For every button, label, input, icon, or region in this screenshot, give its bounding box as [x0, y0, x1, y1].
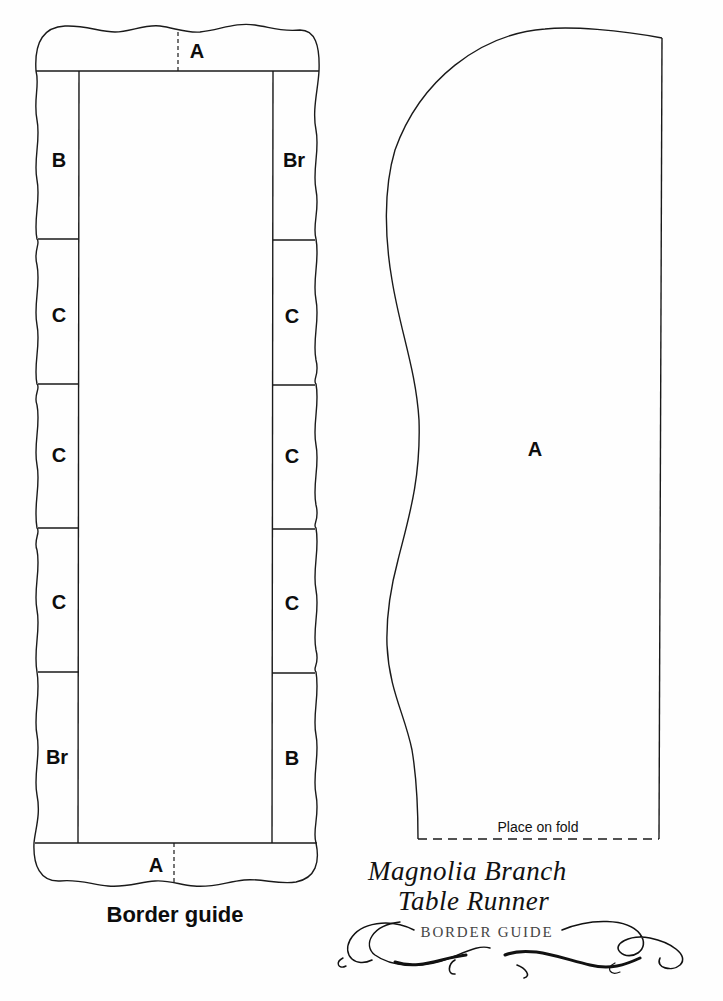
label-right-segment-1: Br: [283, 150, 305, 170]
pattern-piece-outline: [386, 28, 662, 839]
label-right-segment-2: C: [285, 306, 299, 326]
label-top-band: A: [190, 41, 204, 61]
pattern-page: A B C C C Br Br C C C B A Border guide A…: [0, 0, 723, 1001]
place-on-fold-note: Place on fold: [498, 819, 579, 835]
label-right-segment-3: C: [285, 446, 299, 466]
label-left-segment-4: C: [52, 592, 66, 612]
label-left-segment-5: Br: [46, 747, 68, 767]
label-right-segment-4: C: [285, 593, 299, 613]
label-right-segment-5: B: [285, 748, 299, 768]
title-line-1: Magnolia Branch: [368, 856, 567, 887]
title-line-2: Table Runner: [398, 886, 549, 917]
label-left-segment-1: B: [52, 150, 66, 170]
label-left-segment-2: C: [52, 305, 66, 325]
label-left-segment-3: C: [52, 445, 66, 465]
border-outline: [34, 24, 319, 886]
title-subtitle: BORDER GUIDE: [421, 924, 554, 941]
border-guide-caption: Border guide: [107, 902, 244, 928]
label-bottom-band: A: [149, 855, 163, 875]
pattern-piece-label: A: [528, 439, 542, 459]
border-guide-diagram: [0, 0, 723, 1001]
